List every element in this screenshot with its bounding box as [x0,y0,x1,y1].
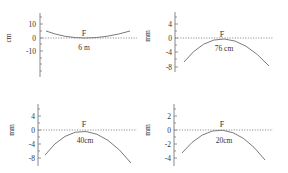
distance-label: 40cm [77,136,94,145]
y-tick-label: 4 [31,112,35,121]
y-tick-label: -4 [29,140,35,149]
y-minor-ticks [40,17,43,71]
y-axis-label: cm [4,33,13,42]
y-tick-label: -2 [165,140,171,149]
y-tick-label: 0 [167,126,171,135]
focus-label: F [82,120,87,129]
distance-label: 6 m [78,43,90,52]
panel-bottom-right: 2 0 -2 -4 mm F 20cm [143,104,273,166]
wavefront-curve [46,31,130,38]
distance-label: 20cm [216,136,233,145]
y-axis-label: mm [143,124,152,136]
panel-top-left: 10 0 -10 cm F 6 m [4,13,137,77]
y-tick-label: -10 [26,47,36,56]
wavefront-curve [182,130,265,160]
focus-label: F [220,120,225,129]
y-minor-ticks [38,109,41,158]
y-tick-label: -8 [166,63,172,72]
y-minor-ticks [175,17,178,67]
panel-top-right: 4 0 -4 -8 mm F 76 cm [143,12,273,72]
focus-label: F [220,30,225,39]
y-tick-label: 2 [167,112,171,121]
focus-profile-figure: 10 0 -10 cm F 6 m 4 0 -4 -8 mm F 76 cm [0,0,288,173]
y-minor-ticks [174,109,177,158]
y-tick-label: 0 [31,126,35,135]
focus-label: F [82,29,87,38]
y-tick-label: 10 [29,20,37,29]
y-tick-label: 0 [168,34,172,43]
y-axis-label: mm [7,124,16,136]
panel-bottom-left: 4 0 -4 -8 mm F 40cm [7,104,137,166]
y-tick-label: -4 [166,48,172,57]
y-tick-label: -4 [165,154,171,163]
y-tick-label: -8 [29,154,35,163]
y-tick-label: 0 [32,34,36,43]
distance-label: 76 cm [215,44,234,53]
y-tick-label: 4 [168,20,172,29]
y-axis-label: mm [143,30,152,42]
